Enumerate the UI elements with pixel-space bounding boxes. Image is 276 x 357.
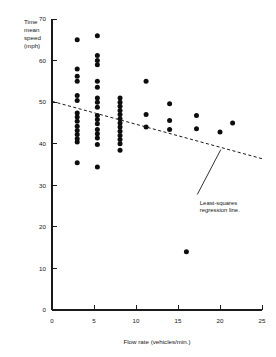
data-point bbox=[75, 37, 80, 42]
data-point bbox=[184, 249, 189, 254]
data-point bbox=[95, 33, 100, 38]
data-point bbox=[167, 127, 172, 132]
annotation-text-line-1: regression line. bbox=[200, 207, 240, 213]
data-point bbox=[144, 112, 149, 117]
data-point bbox=[75, 74, 80, 79]
y-axis-ticks: 010203040506070 bbox=[39, 15, 57, 313]
y-tick-label: 70 bbox=[39, 15, 46, 22]
y-axis-title: Time mean speed (mph) bbox=[24, 18, 41, 49]
annotation-leader-line bbox=[197, 150, 221, 195]
y-tick-label: 30 bbox=[39, 182, 46, 189]
y-tick-label: 50 bbox=[39, 98, 46, 105]
data-point bbox=[75, 93, 80, 98]
data-point bbox=[118, 148, 123, 153]
data-point bbox=[95, 142, 100, 147]
least-squares-regression-line bbox=[52, 101, 262, 158]
y-tick-label: 0 bbox=[43, 306, 47, 313]
x-tick-label: 15 bbox=[175, 317, 182, 324]
x-tick-label: 0 bbox=[50, 317, 54, 324]
data-point bbox=[95, 135, 100, 140]
data-point bbox=[167, 101, 172, 106]
scatter-plot-figure: Time mean speed (mph) 010203040506070 05… bbox=[0, 0, 276, 357]
y-tick-label: 60 bbox=[39, 57, 46, 64]
data-point bbox=[194, 126, 199, 131]
data-point bbox=[75, 79, 80, 84]
y-tick-label: 20 bbox=[39, 223, 46, 230]
plot-canvas: Time mean speed (mph) 010203040506070 05… bbox=[0, 0, 276, 357]
data-point bbox=[118, 141, 123, 146]
data-point bbox=[95, 53, 100, 58]
data-point bbox=[218, 130, 223, 135]
x-axis-title: Flow rate (vehicles/min.) bbox=[123, 338, 190, 345]
data-point bbox=[95, 79, 100, 84]
data-point bbox=[75, 160, 80, 165]
data-point bbox=[95, 164, 100, 169]
data-point bbox=[144, 79, 149, 84]
x-tick-label: 20 bbox=[217, 317, 224, 324]
data-point bbox=[194, 113, 199, 118]
axes bbox=[52, 19, 262, 310]
data-point bbox=[75, 119, 80, 124]
y-tick-label: 40 bbox=[39, 140, 46, 147]
x-axis-ticks: 0510152025 bbox=[50, 305, 266, 324]
data-point bbox=[95, 105, 100, 110]
data-points-layer bbox=[75, 33, 235, 254]
data-point bbox=[75, 140, 80, 145]
data-point bbox=[230, 120, 235, 125]
data-point bbox=[75, 66, 80, 71]
y-tick-label: 10 bbox=[39, 265, 46, 272]
data-point bbox=[95, 85, 100, 90]
annotation-layer: Least-squares regression line. bbox=[197, 150, 240, 214]
x-tick-label: 10 bbox=[133, 317, 140, 324]
data-point bbox=[95, 121, 100, 126]
y-axis-title-line-2: speed bbox=[24, 34, 41, 41]
y-axis-title-line-3: (mph) bbox=[24, 42, 40, 49]
data-point bbox=[95, 62, 100, 67]
y-axis-title-line-1: mean bbox=[24, 26, 40, 33]
annotation-text-line-0: Least-squares bbox=[200, 200, 237, 206]
x-tick-label: 5 bbox=[92, 317, 96, 324]
x-tick-label: 25 bbox=[259, 317, 266, 324]
data-point bbox=[167, 118, 172, 123]
y-axis-title-line-0: Time bbox=[24, 18, 38, 25]
data-point bbox=[75, 98, 80, 103]
data-point bbox=[95, 100, 100, 105]
